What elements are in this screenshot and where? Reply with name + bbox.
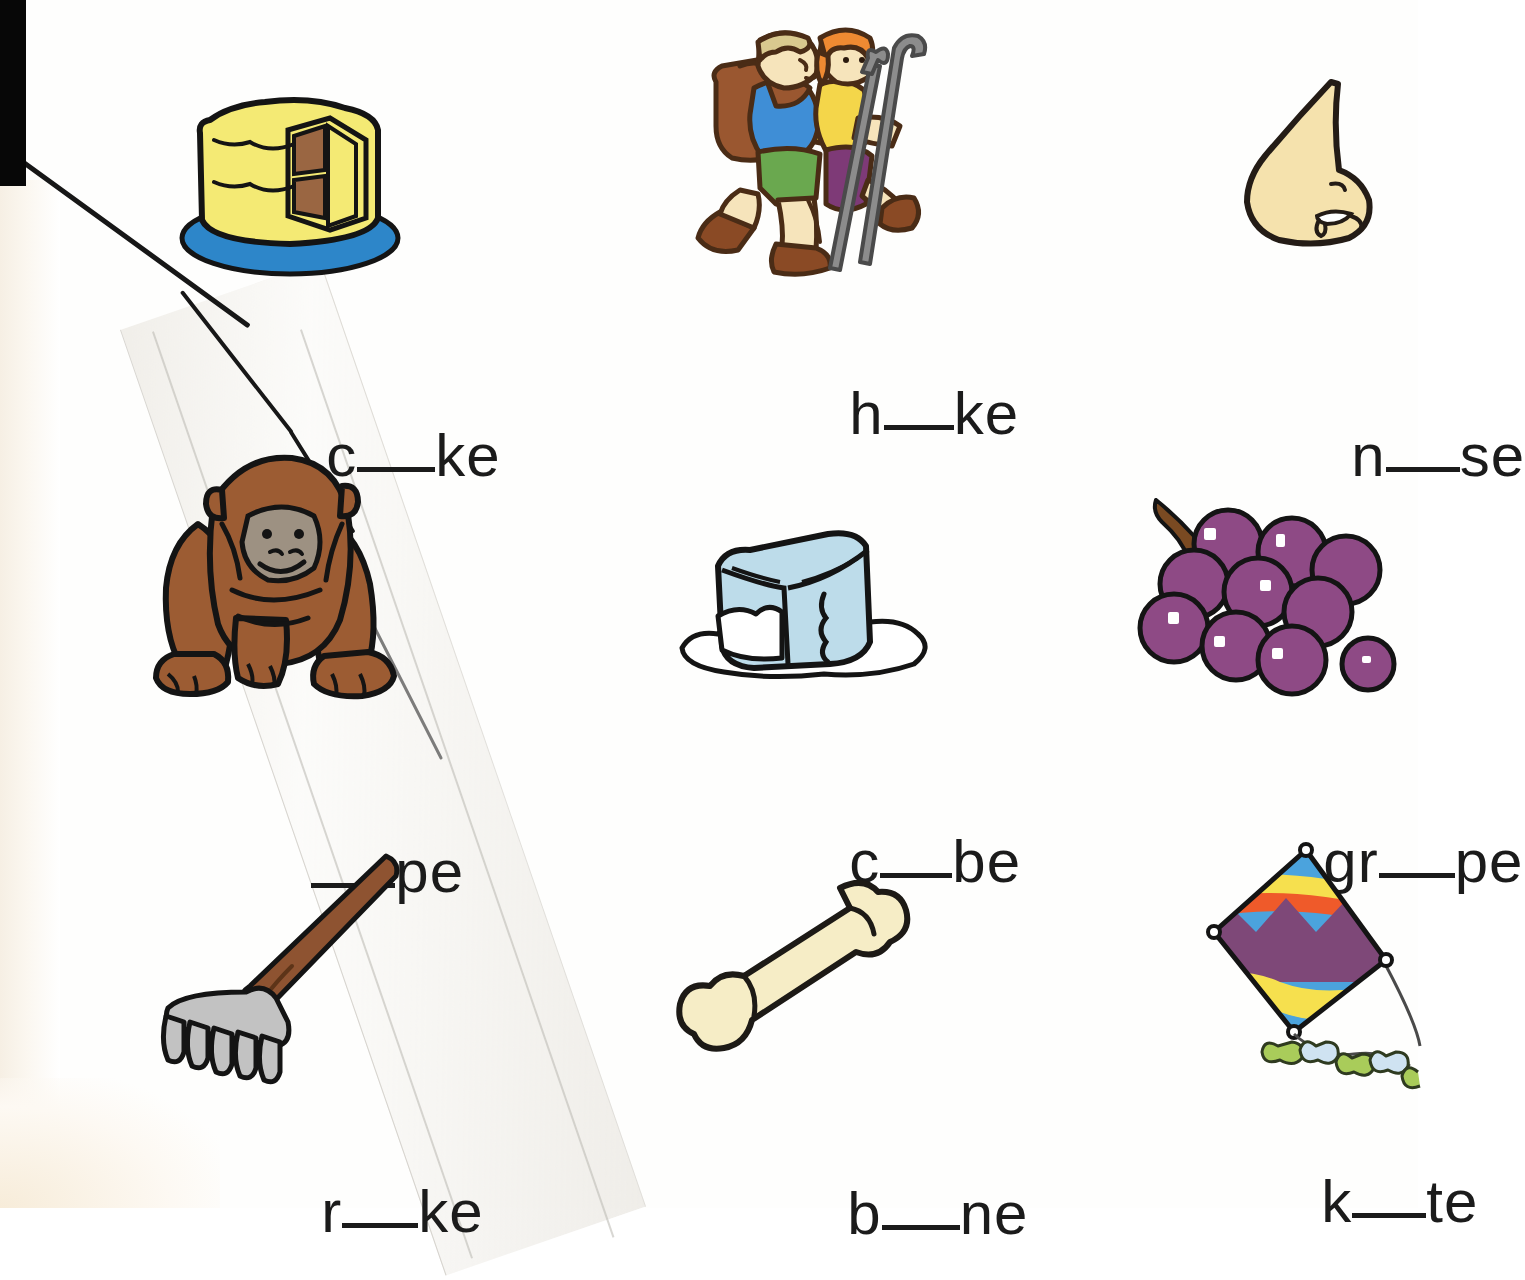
- word-kite: kte: [1180, 1098, 1478, 1280]
- word-suffix: ke: [954, 380, 1019, 447]
- word-blank[interactable]: [882, 1225, 960, 1230]
- cell-rake: rke: [130, 840, 460, 1208]
- word-prefix: h: [849, 380, 883, 447]
- cell-ape: pe: [120, 420, 440, 820]
- word-suffix: ke: [435, 422, 500, 489]
- word-prefix: b: [847, 1180, 881, 1247]
- cell-grape: grpe: [1120, 470, 1420, 820]
- word-bone: bne: [706, 1110, 1028, 1280]
- hikers-illustration: [680, 22, 930, 287]
- nose-illustration: [1235, 74, 1380, 264]
- word-prefix: k: [1321, 1168, 1352, 1235]
- cell-cake: cke: [160, 60, 460, 390]
- bone-illustration: [674, 876, 929, 1066]
- kite-illustration: [1170, 836, 1420, 1086]
- word-suffix: te: [1426, 1168, 1478, 1235]
- word-suffix: pe: [1455, 828, 1524, 895]
- word-blank[interactable]: [884, 425, 954, 430]
- word-rake: rke: [180, 1108, 484, 1280]
- word-blank[interactable]: [342, 1223, 418, 1228]
- word-hike: hke: [708, 310, 1019, 517]
- cell-kite: kte: [1140, 830, 1430, 1208]
- word-suffix: ne: [960, 1180, 1029, 1247]
- cell-cube: cbe: [660, 500, 960, 820]
- ape-illustration: [132, 438, 422, 708]
- word-prefix: r: [321, 1178, 342, 1245]
- word-suffix: ke: [418, 1178, 483, 1245]
- word-suffix: se: [1460, 422, 1525, 489]
- ice-cube-illustration: [674, 522, 939, 682]
- cell-hike: hke: [660, 10, 960, 390]
- word-suffix: be: [952, 828, 1021, 895]
- word-blank[interactable]: [1352, 1213, 1426, 1218]
- cell-nose: nse: [1180, 60, 1420, 390]
- cell-bone: bne: [660, 870, 960, 1208]
- rake-illustration: [142, 846, 432, 1081]
- grapes-illustration: [1132, 488, 1412, 708]
- cake-illustration: [170, 70, 410, 285]
